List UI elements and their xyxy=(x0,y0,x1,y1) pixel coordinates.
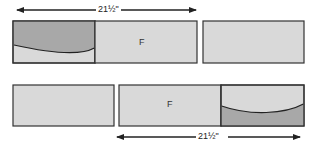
top-panel-c xyxy=(203,21,304,63)
bottom-panel-f xyxy=(221,85,304,126)
top-panel-b-label: F xyxy=(139,37,145,47)
top-panel-b xyxy=(95,21,197,63)
bottom-dimension-label: 21½" xyxy=(196,131,221,141)
top-dimension-label: 21½" xyxy=(96,4,121,14)
bottom-panel-e-label: F xyxy=(167,99,173,109)
bottom-panel-d xyxy=(13,85,114,126)
quilt-diagram xyxy=(0,0,318,155)
top-panel-a xyxy=(13,21,95,63)
